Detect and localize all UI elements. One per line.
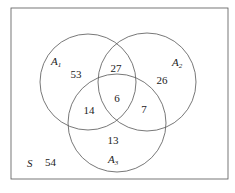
- set-a3-circle: [68, 74, 166, 172]
- venn-diagram: A1 A2 A3 53 27 26 6 14 7 13 S 54: [0, 0, 235, 193]
- set-a1-label: A1: [50, 55, 61, 69]
- set-a2-circle: [98, 33, 196, 131]
- region-a1-a2: 27: [111, 62, 123, 74]
- region-a1-a2-a3: 6: [114, 92, 120, 104]
- region-outside: 54: [45, 156, 57, 168]
- region-a1-a3: 14: [84, 104, 96, 116]
- region-a1-only: 53: [71, 68, 83, 80]
- region-a3-only: 13: [108, 134, 120, 146]
- set-a2-label: A2: [171, 56, 183, 70]
- region-a2-only: 26: [157, 74, 169, 86]
- set-a3-label: A3: [107, 153, 119, 167]
- universe-label: S: [27, 157, 33, 169]
- region-a2-a3: 7: [141, 103, 147, 115]
